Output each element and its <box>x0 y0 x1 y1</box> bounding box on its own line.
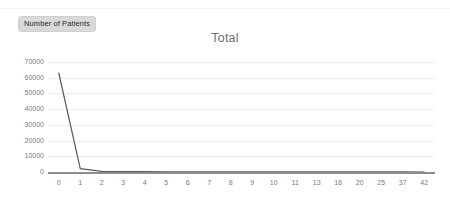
y-tick-label: 30000 <box>10 121 44 129</box>
x-tick-label: 13 <box>313 178 321 187</box>
x-tick-label: 0 <box>57 178 61 187</box>
chart-title: Total <box>0 31 450 46</box>
x-tick-label: 8 <box>229 178 233 187</box>
y-tick-label: 50000 <box>10 89 44 97</box>
y-tick-label: 40000 <box>10 105 44 113</box>
top-divider <box>0 8 450 9</box>
x-tick-label: 7 <box>207 178 211 187</box>
x-tick-label: 42 <box>420 178 428 187</box>
series-polyline <box>59 73 425 172</box>
x-tick-label: 20 <box>356 178 364 187</box>
x-tick-label: 37 <box>399 178 407 187</box>
x-tick-label: 10 <box>270 178 278 187</box>
y-tick-label: 60000 <box>10 74 44 82</box>
y-tick-label: 70000 <box>10 58 44 66</box>
x-tick-label: 4 <box>143 178 147 187</box>
x-tick-label: 25 <box>377 178 385 187</box>
y-axis-tick-labels: 700006000050000400003000020000100000 <box>8 62 44 172</box>
series-line-number-of-patients <box>48 62 435 172</box>
x-axis-tick-labels: 01234567891011131620253742 <box>48 178 435 190</box>
x-tick-label: 5 <box>164 178 168 187</box>
legend-chip-number-of-patients[interactable]: Number of Patients <box>18 16 96 32</box>
y-tick-label: 10000 <box>10 152 44 160</box>
x-tick-label: 2 <box>100 178 104 187</box>
x-tick-label: 16 <box>334 178 342 187</box>
x-tick-label: 9 <box>250 178 254 187</box>
x-tick-label: 3 <box>121 178 125 187</box>
x-tick-label: 11 <box>292 178 299 187</box>
y-tick-label: 0 <box>10 168 44 176</box>
x-axis-line <box>48 172 435 174</box>
x-tick-label: 1 <box>78 178 82 187</box>
chart-container: Number of Patients Total 700006000050000… <box>0 0 450 206</box>
y-tick-label: 20000 <box>10 137 44 145</box>
plot-area <box>48 62 435 172</box>
x-tick-label: 6 <box>186 178 190 187</box>
